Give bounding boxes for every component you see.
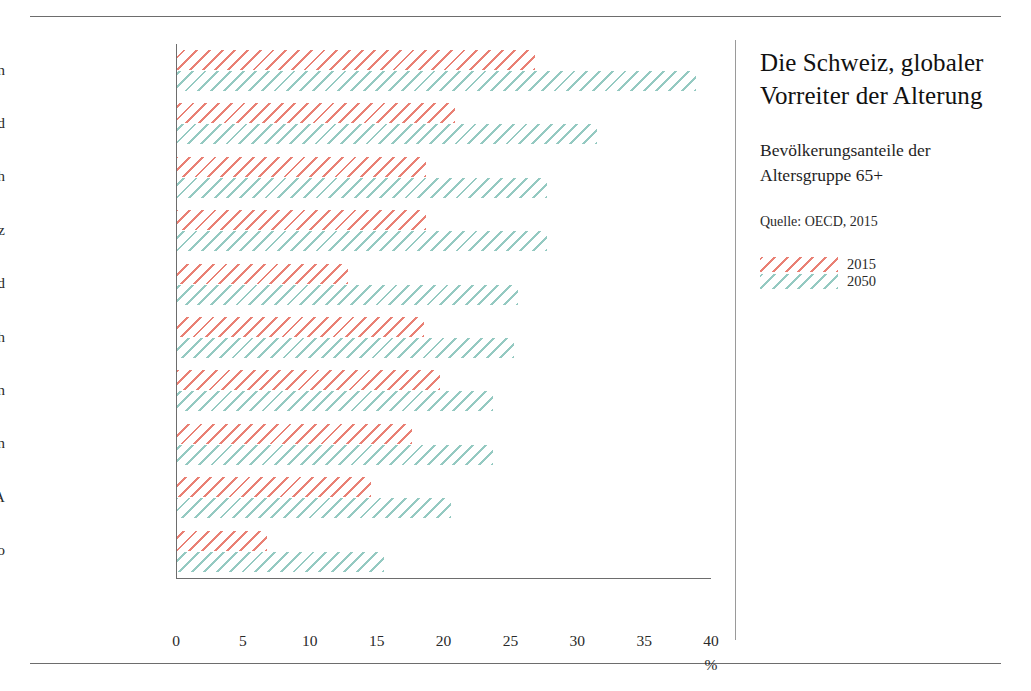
bar-2050 — [177, 445, 493, 465]
bar-2050 — [177, 498, 451, 518]
y-axis-label: Grossbritannien — [0, 434, 5, 452]
y-axis-label: Mexiko — [0, 541, 5, 559]
bar-2015 — [177, 424, 412, 444]
plot-area: JapanDeutschlandÖsterreichSchweizIrlandF… — [176, 44, 711, 578]
x-axis-line — [176, 578, 711, 579]
y-axis-label: Frankreich — [0, 328, 5, 346]
bar-2050 — [177, 231, 547, 251]
bar-rows: JapanDeutschlandÖsterreichSchweizIrlandF… — [177, 44, 711, 578]
legend-swatch-2015 — [760, 257, 838, 272]
bar-2050 — [177, 71, 696, 91]
y-axis-label: Irland — [0, 274, 5, 292]
x-axis-unit-label: % — [705, 656, 718, 674]
bar-row: Irland — [177, 258, 711, 311]
bar-2015 — [177, 370, 440, 390]
bar-row: Schweden — [177, 364, 711, 417]
y-axis-label: USA — [0, 488, 5, 506]
bar-row: Mexiko — [177, 525, 711, 578]
bar-2015 — [177, 477, 371, 497]
legend-item: 2015 — [760, 256, 1010, 273]
bar-2015 — [177, 317, 424, 337]
y-axis-label: Österreich — [0, 167, 5, 185]
y-axis-label: Schweiz — [0, 221, 5, 239]
bar-2015 — [177, 157, 426, 177]
bar-row: Frankreich — [177, 311, 711, 364]
panel-title: Die Schweiz, globaler Vorreiter der Alte… — [760, 46, 1010, 112]
chart-figure: JapanDeutschlandÖsterreichSchweizIrlandF… — [30, 40, 730, 640]
bar-2050 — [177, 391, 493, 411]
bar-2050 — [177, 338, 514, 358]
x-tick-label: 15 — [369, 632, 385, 650]
bar-2015 — [177, 50, 535, 70]
x-tick-label: 20 — [436, 632, 452, 650]
y-axis-label: Schweden — [0, 381, 5, 399]
bar-2015 — [177, 531, 267, 551]
bar-row: Grossbritannien — [177, 418, 711, 471]
x-axis-ticks: 0510152025303540% — [176, 632, 711, 656]
x-tick-label: 5 — [239, 632, 247, 650]
bar-2050 — [177, 552, 384, 572]
legend-swatch-2050 — [760, 274, 838, 289]
x-tick-label: 0 — [172, 632, 180, 650]
panel-divider — [735, 40, 736, 640]
chart-legend: 20152050 — [760, 256, 1010, 290]
x-tick-label: 40 — [703, 632, 719, 650]
top-divider — [30, 16, 1001, 17]
panel-subtitle: Bevölkerungsanteile der Altersgruppe 65+ — [760, 138, 1010, 188]
x-tick-label: 25 — [503, 632, 519, 650]
bar-row: Österreich — [177, 151, 711, 204]
x-tick-label: 35 — [636, 632, 652, 650]
y-axis-label: Japan — [0, 61, 5, 79]
bar-2015 — [177, 210, 426, 230]
bar-row: Japan — [177, 44, 711, 97]
bar-row: USA — [177, 471, 711, 524]
y-axis-label: Deutschland — [0, 114, 5, 132]
bar-2050 — [177, 124, 597, 144]
bar-row: Deutschland — [177, 97, 711, 150]
bar-2050 — [177, 178, 547, 198]
bottom-divider — [30, 663, 1001, 664]
x-tick-label: 10 — [302, 632, 318, 650]
x-tick-label: 30 — [570, 632, 586, 650]
bar-2015 — [177, 264, 348, 284]
legend-label: 2050 — [847, 274, 876, 289]
panel-source: Quelle: OECD, 2015 — [760, 214, 1010, 230]
legend-item: 2050 — [760, 273, 1010, 290]
bar-2050 — [177, 285, 518, 305]
legend-label: 2015 — [847, 257, 876, 272]
bar-2015 — [177, 103, 455, 123]
chart-page: JapanDeutschlandÖsterreichSchweizIrlandF… — [0, 0, 1031, 691]
bar-row: Schweiz — [177, 204, 711, 257]
info-panel: Die Schweiz, globaler Vorreiter der Alte… — [760, 46, 1010, 290]
